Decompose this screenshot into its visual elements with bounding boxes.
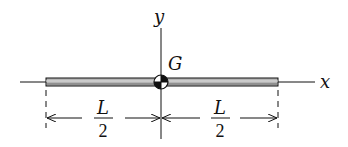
dim-right-numerator: L	[213, 97, 226, 118]
y-axis-label: y	[153, 6, 165, 27]
centroid-label: G	[168, 53, 182, 74]
x-axis-label: x	[320, 71, 330, 92]
dim-right-denominator: 2	[216, 121, 225, 141]
dim-left-numerator: L	[96, 97, 109, 118]
dim-left-denominator: 2	[99, 121, 108, 141]
dimension-right: L 2	[162, 97, 277, 141]
center-of-mass-icon	[154, 75, 168, 89]
dimension-left: L 2	[47, 97, 160, 141]
rod-diagram: y x G L 2 L 2	[0, 0, 348, 147]
